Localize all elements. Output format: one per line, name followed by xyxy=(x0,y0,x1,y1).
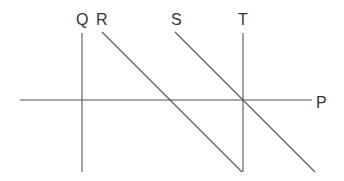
line-diagram: P Q R S T xyxy=(0,0,344,181)
label-s: S xyxy=(171,11,182,28)
line-r xyxy=(102,32,242,172)
label-t: T xyxy=(238,11,248,28)
label-q: Q xyxy=(76,11,88,28)
label-r: R xyxy=(96,11,108,28)
label-p: P xyxy=(316,94,327,111)
line-t-group: T xyxy=(238,11,248,172)
line-q-group: Q xyxy=(76,11,88,172)
line-p-group: P xyxy=(20,94,327,111)
line-s xyxy=(175,32,315,172)
line-r-group: R xyxy=(96,11,242,172)
